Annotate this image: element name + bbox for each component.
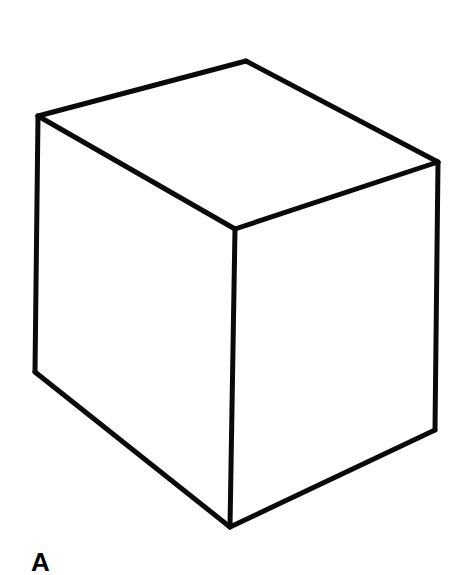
cube-edge-top_left-top_back <box>38 61 246 116</box>
cube-edge-top_left-top_front <box>38 116 235 229</box>
cube-edge-top_back-top_right <box>246 61 438 162</box>
cube-edge-top_right-bottom_right <box>435 162 438 430</box>
cube-edge-top_left-bottom_left <box>35 116 38 372</box>
cube-edge-bottom_left-bottom_front <box>35 372 230 527</box>
cube-edge-top_front-bottom_front <box>230 229 235 527</box>
cube-edge-bottom_front-bottom_right <box>230 430 435 527</box>
cube-edge-top_front-top_right <box>235 162 438 229</box>
figure-label: A <box>31 549 50 575</box>
